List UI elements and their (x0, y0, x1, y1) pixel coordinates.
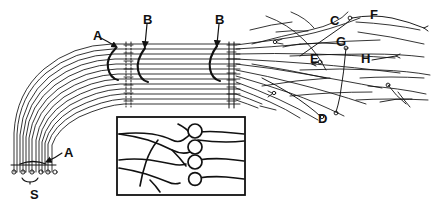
label-D: D (318, 112, 327, 125)
fiber-tail-hooks (260, 39, 300, 110)
label-A-bottom: A (64, 146, 73, 159)
pointer-b-right (217, 24, 219, 44)
inset-detail-box (117, 117, 245, 195)
s-brace (22, 178, 38, 184)
node-band-1 (126, 42, 131, 107)
label-F: F (370, 8, 378, 21)
pointer-b-left (145, 24, 147, 45)
sensory-ending-circles (12, 170, 57, 174)
figure-canvas: A B B C F G E H D A S (0, 0, 439, 206)
label-G: G (336, 35, 346, 48)
fiber-ending-d (262, 78, 320, 116)
label-B-right: B (215, 13, 224, 26)
label-E: E (310, 52, 319, 65)
label-B-left: B (143, 13, 152, 26)
label-S: S (30, 188, 39, 201)
diagram-artwork (0, 0, 439, 206)
label-C: C (330, 14, 339, 27)
ring-endings (272, 16, 412, 119)
pointer-a-bottom (48, 153, 62, 161)
label-A-top: A (93, 29, 102, 42)
label-H: H (361, 52, 370, 65)
fiber-ending-f (352, 16, 428, 31)
